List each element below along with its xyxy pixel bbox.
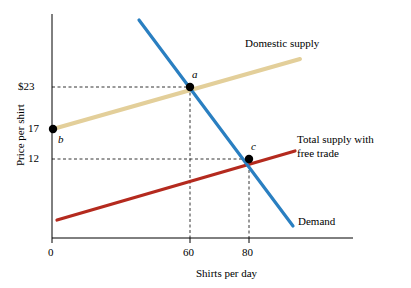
- point-marker-b: [49, 125, 57, 133]
- ytick-label-17: 17: [28, 122, 39, 134]
- series-label-demand: Demand: [298, 215, 335, 227]
- ytick-label-23: $23: [18, 80, 35, 92]
- point-marker-a: [186, 83, 194, 91]
- chart-figure: $23 17 12 0 60 80 Shirts per day Price p…: [0, 0, 411, 288]
- series-total-supply-line: [57, 151, 295, 220]
- xtick-label-0: 0: [48, 246, 54, 258]
- series-label-domestic-supply: Domestic supply: [245, 37, 319, 49]
- series-demand-line: [139, 20, 293, 226]
- dashed-guides: [52, 87, 249, 238]
- y-axis-title: Price per shirt: [14, 104, 26, 166]
- series-label-total-supply-line2: free trade: [297, 147, 339, 159]
- point-marker-c: [245, 155, 253, 163]
- point-label-a: a: [192, 68, 198, 80]
- xtick-label-80: 80: [242, 246, 253, 258]
- ytick-label-12: 12: [28, 152, 39, 164]
- xtick-label-60: 60: [183, 246, 194, 258]
- point-label-c: c: [251, 140, 256, 152]
- series-label-total-supply-line1: Total supply with: [297, 133, 374, 145]
- x-axis-title: Shirts per day: [196, 267, 257, 279]
- point-label-b: b: [58, 133, 64, 145]
